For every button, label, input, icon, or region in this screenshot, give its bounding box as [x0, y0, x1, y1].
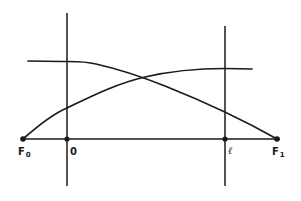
label-O-main: 0: [70, 146, 77, 157]
label-F1-sub: 1: [280, 151, 285, 159]
label-F0-main: F: [18, 146, 25, 157]
label-O: 0: [70, 147, 77, 157]
label-F1-main: F: [272, 146, 279, 157]
diagram-canvas: [0, 0, 301, 201]
label-F1: F1: [272, 147, 285, 159]
point-F1: [274, 136, 280, 142]
point-F0: [20, 136, 26, 142]
label-F0: F0: [18, 147, 31, 159]
point-l: [222, 136, 227, 141]
label-l: ℓ: [228, 146, 232, 156]
label-F0-sub: 0: [26, 151, 31, 159]
increasing-curve: [23, 69, 252, 140]
decreasing-curve: [28, 61, 277, 139]
label-l-main: ℓ: [228, 145, 232, 156]
point-O: [64, 136, 69, 141]
